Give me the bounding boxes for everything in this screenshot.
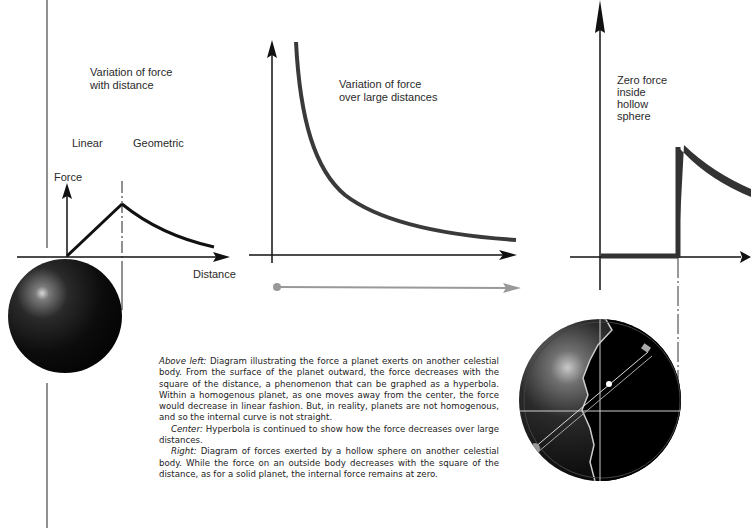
body-cylinder-end — [530, 443, 540, 455]
caption-text-right: Diagram of forces exerted by a hollow sp… — [159, 446, 499, 479]
y-axis-arrow-icon — [595, 0, 605, 33]
region-geometric-label: Geometric — [133, 137, 184, 150]
left-title-line2: with distance — [90, 79, 172, 92]
figure-caption: Above left: Diagram illustrating the for… — [159, 356, 499, 480]
caption-lead-right: Right: — [171, 446, 197, 456]
caption-paragraph-center: Center: Hyperbola is continued to show h… — [159, 424, 499, 447]
caption-paragraph-right: Right: Diagram of forces exerted by a ho… — [159, 446, 499, 480]
left-title-line1: Variation of force — [90, 66, 172, 79]
y-axis-label: Force — [54, 171, 82, 184]
x-axis-label: Distance — [193, 268, 236, 281]
x-axis-arrow-icon — [740, 251, 751, 263]
test-body — [606, 381, 612, 387]
right-title-line3: hollow — [617, 98, 667, 110]
right-force-graph — [519, 0, 751, 485]
region-linear-label: Linear — [72, 137, 103, 150]
caption-lead-center: Center: — [171, 424, 203, 434]
caption-lead-left: Above left: — [159, 356, 206, 366]
solid-planet — [8, 259, 122, 373]
right-title-line4: sphere — [617, 110, 667, 122]
right-title: Zero force inside hollow sphere — [617, 74, 667, 122]
linear-curve — [67, 204, 122, 256]
distance-arrow — [277, 287, 508, 288]
geometric-curve — [122, 204, 214, 247]
caption-paragraph-left: Above left: Diagram illustrating the for… — [159, 356, 499, 424]
left-title: Variation of force with distance — [90, 66, 172, 92]
caption-text-left: Diagram illustrating the force a planet … — [159, 356, 499, 422]
center-title-line2: over large distances — [339, 91, 437, 104]
caption-text-center: Hyperbola is continued to show how the f… — [159, 424, 499, 445]
right-title-line2: inside — [617, 86, 667, 98]
hyperbola-curve — [296, 42, 516, 240]
center-title: Variation of force over large distances — [339, 78, 437, 104]
right-title-line1: Zero force — [617, 74, 667, 86]
center-title-line1: Variation of force — [339, 78, 437, 91]
external-force-curve — [678, 145, 751, 258]
